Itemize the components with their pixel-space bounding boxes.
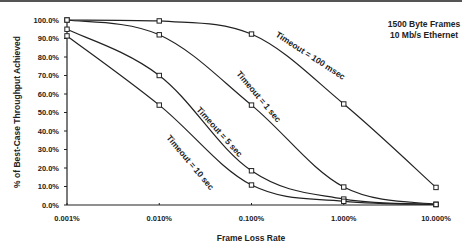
y-ticks: 0.0%10.0%20.0%30.0%40.0%50.0%60.0%70.0%8… bbox=[34, 16, 67, 210]
data-point-marker bbox=[65, 18, 69, 22]
axes: 0.0%10.0%20.0%30.0%40.0%50.0%60.0%70.0%8… bbox=[34, 16, 452, 224]
throughput-chart: 0.0%10.0%20.0%30.0%40.0%50.0%60.0%70.0%8… bbox=[0, 0, 462, 249]
data-point-marker bbox=[249, 169, 253, 173]
data-point-marker bbox=[342, 102, 346, 106]
curve-label-100ms: Timeout = 100 msec bbox=[274, 29, 347, 82]
data-point-marker bbox=[342, 199, 346, 203]
x-ticks: 0.001%0.010%0.100%1.000%10.000% bbox=[54, 203, 451, 223]
curve-label-10s: Timeout = 10 sec bbox=[164, 133, 216, 192]
y-axis-title: % of Best-Case Throughput Achieved bbox=[12, 36, 22, 188]
data-point-marker bbox=[157, 103, 161, 107]
series-line bbox=[67, 29, 436, 204]
data-point-marker bbox=[65, 27, 69, 31]
y-tick-label: 10.0% bbox=[38, 182, 60, 191]
y-tick-label: 70.0% bbox=[38, 71, 60, 80]
y-tick-label: 40.0% bbox=[38, 127, 60, 136]
x-axis-title: Frame Loss Rate bbox=[217, 233, 286, 243]
x-tick-label: 0.100% bbox=[239, 214, 265, 223]
y-tick-label: 90.0% bbox=[38, 34, 60, 43]
data-point-marker bbox=[65, 34, 69, 38]
x-tick-label: 1.000% bbox=[331, 214, 357, 223]
y-tick-label: 30.0% bbox=[38, 145, 60, 154]
annotation-frames: 1500 Byte Frames bbox=[388, 19, 461, 29]
data-point-marker bbox=[249, 183, 253, 187]
series-line bbox=[67, 36, 436, 205]
data-point-marker bbox=[434, 202, 438, 206]
x-tick-label: 10.000% bbox=[421, 214, 451, 223]
annotation-ethernet: 10 Mb/s Ethernet bbox=[390, 30, 458, 40]
y-tick-label: 0.0% bbox=[42, 201, 59, 210]
data-point-marker bbox=[157, 33, 161, 37]
data-point-marker bbox=[249, 32, 253, 36]
data-point-marker bbox=[342, 185, 346, 189]
curves bbox=[65, 18, 438, 207]
series-line bbox=[67, 20, 436, 204]
data-point-marker bbox=[157, 73, 161, 77]
data-point-marker bbox=[157, 19, 161, 23]
y-tick-label: 20.0% bbox=[38, 164, 60, 173]
y-tick-label: 100.0% bbox=[34, 16, 60, 25]
y-tick-label: 60.0% bbox=[38, 90, 60, 99]
y-tick-label: 80.0% bbox=[38, 53, 60, 62]
data-point-marker bbox=[434, 185, 438, 189]
x-tick-label: 0.010% bbox=[147, 214, 173, 223]
x-tick-label: 0.001% bbox=[54, 214, 80, 223]
y-tick-label: 50.0% bbox=[38, 108, 60, 117]
curve-label-5s: Timeout = 5 sec bbox=[195, 105, 245, 159]
data-point-marker bbox=[249, 103, 253, 107]
